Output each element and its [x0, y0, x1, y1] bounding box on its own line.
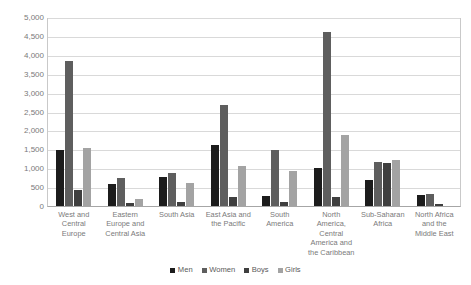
legend-swatch-icon: [244, 268, 249, 273]
category-label-line: Africa: [357, 219, 409, 228]
category-label-line: Middle East: [409, 229, 461, 238]
legend-swatch-icon: [278, 268, 283, 273]
bar-boys: [332, 197, 340, 206]
bar-men: [262, 196, 270, 206]
category-label-line: Europe and: [100, 219, 152, 228]
y-axis-tick-label: 2,500: [0, 109, 44, 117]
bar-women: [220, 105, 228, 206]
bar-men: [159, 177, 167, 206]
y-axis-tick-label: 0: [0, 203, 44, 211]
bar-women: [117, 178, 125, 206]
bar-women: [323, 32, 331, 206]
bar-group: [100, 19, 152, 206]
y-axis-tick-label: 1,500: [0, 146, 44, 154]
category-label-line: North: [306, 210, 358, 219]
category-label-line: West and: [48, 210, 100, 219]
bar-women: [374, 162, 382, 206]
bar-women: [426, 194, 434, 206]
legend-label: Women: [209, 266, 235, 274]
bar-boys: [177, 202, 185, 206]
category-label-line: Sub-Saharan: [357, 210, 409, 219]
legend-item-women[interactable]: Women: [202, 266, 236, 274]
legend-item-men[interactable]: Men: [170, 266, 192, 274]
bar-group: [254, 19, 306, 206]
category-label: West andCentralEurope: [48, 210, 100, 238]
legend-item-girls[interactable]: Girls: [278, 266, 301, 274]
category-label-line: and the: [409, 219, 461, 228]
bar-girls: [83, 148, 91, 206]
category-label-line: Central: [48, 219, 100, 228]
bar-girls: [392, 160, 400, 206]
category-label: SouthAmerica: [254, 210, 306, 229]
category-label-line: South Asia: [151, 210, 203, 219]
bar-group: [306, 19, 358, 206]
bar-girls: [238, 166, 246, 206]
x-axis-category-labels: West andCentralEuropeEasternEurope andCe…: [48, 210, 460, 262]
category-label-line: the Caribbean: [306, 248, 358, 257]
bar-group: [203, 19, 255, 206]
category-label-line: Eastern: [100, 210, 152, 219]
y-axis-tick-label: 5,000: [0, 14, 44, 22]
legend-swatch-icon: [170, 268, 175, 273]
bar-men: [211, 145, 219, 206]
bar-chart: 05001,0001,5002,0002,5003,0003,5004,0004…: [0, 0, 471, 285]
bar-women: [65, 61, 73, 206]
category-label: EasternEurope andCentral Asia: [100, 210, 152, 238]
category-label-line: Europe: [48, 229, 100, 238]
bar-group: [48, 19, 100, 206]
y-axis-tick-label: 4,000: [0, 52, 44, 60]
y-axis-tick-label: 1,000: [0, 165, 44, 173]
category-label-line: America: [254, 219, 306, 228]
bar-boys: [383, 163, 391, 206]
category-label: North Africaand theMiddle East: [409, 210, 461, 238]
bar-men: [314, 168, 322, 206]
legend-swatch-icon: [202, 268, 207, 273]
category-label-line: the Pacific: [203, 219, 255, 228]
bar-boys: [229, 197, 237, 206]
bar-boys: [126, 203, 134, 206]
bar-boys: [435, 204, 443, 206]
category-label-line: North Africa: [409, 210, 461, 219]
bar-girls: [341, 135, 349, 206]
legend-label: Men: [178, 266, 193, 274]
category-label: Sub-SaharanAfrica: [357, 210, 409, 229]
y-axis-tick-label: 4,500: [0, 33, 44, 41]
bar-women: [271, 150, 279, 206]
bar-men: [56, 150, 64, 206]
legend-label: Boys: [252, 266, 269, 274]
y-axis-tick-label: 2,000: [0, 127, 44, 135]
category-label-line: America,: [306, 219, 358, 228]
bar-girls: [289, 171, 297, 206]
y-axis: 05001,0001,5002,0002,5003,0003,5004,0004…: [0, 18, 44, 207]
bar-group: [151, 19, 203, 206]
category-label-line: Central: [306, 229, 358, 238]
category-label-line: America and: [306, 238, 358, 247]
bar-girls: [135, 199, 143, 206]
category-label: East Asia andthe Pacific: [203, 210, 255, 229]
legend-label: Girls: [285, 266, 301, 274]
chart-legend: MenWomenBoysGirls: [0, 266, 471, 274]
y-axis-tick-label: 3,500: [0, 71, 44, 79]
y-axis-tick-label: 3,000: [0, 90, 44, 98]
category-label: South Asia: [151, 210, 203, 219]
bar-group: [409, 19, 461, 206]
bars-layer: [48, 19, 460, 206]
bar-boys: [280, 202, 288, 206]
bar-men: [365, 180, 373, 206]
bar-girls: [186, 183, 194, 206]
category-label: NorthAmerica,CentralAmerica andthe Carib…: [306, 210, 358, 257]
category-label-line: South: [254, 210, 306, 219]
y-axis-tick-label: 500: [0, 184, 44, 192]
bar-men: [417, 195, 425, 206]
bar-group: [357, 19, 409, 206]
bar-men: [108, 184, 116, 206]
category-label-line: East Asia and: [203, 210, 255, 219]
category-label-line: Central Asia: [100, 229, 152, 238]
bar-boys: [74, 190, 82, 206]
bar-women: [168, 173, 176, 206]
legend-item-boys[interactable]: Boys: [244, 266, 268, 274]
